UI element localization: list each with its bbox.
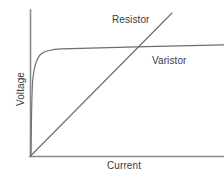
axes-group (30, 10, 224, 157)
resistor-curve (31, 13, 173, 156)
y-axis-label: Voltage (15, 63, 27, 115)
x-axis-label: Current (107, 160, 141, 172)
resistor-series-label: Resistor (112, 14, 149, 26)
chart-figure: Resistor Varistor Current Voltage (0, 0, 224, 181)
varistor-series-label: Varistor (152, 55, 187, 67)
chart-plot-area (0, 0, 224, 181)
varistor-curve (31, 45, 224, 156)
